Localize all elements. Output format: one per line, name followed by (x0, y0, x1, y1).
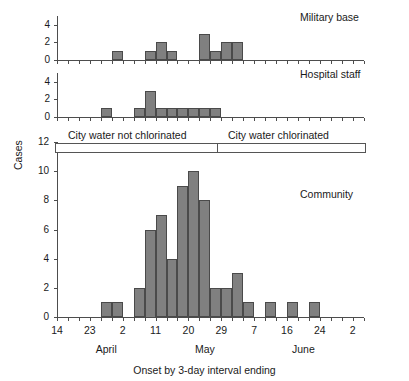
panel-0-y-tick-label: 4 (30, 20, 50, 30)
panel-2-x-tick (232, 318, 233, 321)
bar-2-12 (188, 171, 199, 317)
panel-2-x-tick (134, 318, 135, 321)
panel-2-x-tick (221, 318, 222, 321)
panel-0-x-tick (57, 61, 58, 64)
panel-0-x-tick (101, 61, 102, 64)
bar-2-17 (243, 302, 254, 317)
panel-0-x-tick (254, 61, 255, 64)
panel-2-y-tick (54, 230, 58, 231)
month-label-1: May (181, 343, 229, 355)
panel-0-x-tick (167, 61, 168, 64)
x-tick-label-8: 24 (307, 325, 333, 336)
panel-2-x-tick (199, 318, 200, 321)
panel-1-y-tick-label: 2 (30, 94, 50, 104)
x-tick-label-9: 2 (340, 325, 366, 336)
panel-0-x-tick (287, 61, 288, 64)
bar-2-14 (210, 288, 221, 317)
panel-2-x-tick (145, 318, 146, 321)
bar-1-7 (134, 108, 145, 117)
panel-0-y-tick-label: 2 (30, 37, 50, 47)
panel-1-x-tick (90, 118, 91, 121)
panel-1-x-tick (57, 118, 58, 121)
panel-1-x-tick (199, 118, 200, 121)
panel-1-x-tick (320, 118, 321, 121)
bar-1-14 (210, 108, 221, 117)
panel-1-x-tick (298, 118, 299, 121)
panel-0-x-tick (364, 61, 365, 64)
panel-1-x-tick (68, 118, 69, 121)
panel-0-x-tick (177, 61, 178, 64)
panel-0-x-tick (156, 61, 157, 64)
panel-0-x-tick (112, 61, 113, 64)
panel-0-x-tick (276, 61, 277, 64)
panel-2-x-tick (167, 318, 168, 321)
bar-2-19 (265, 302, 276, 317)
panel-0-x-tick (342, 61, 343, 64)
bar-2-16 (232, 273, 243, 317)
bar-1-12 (188, 108, 199, 117)
panel-2-y-tick-label: 10 (27, 166, 49, 176)
panel-2-y-tick-label: 12 (27, 137, 49, 147)
bar-1-9 (156, 108, 167, 117)
bar-2-10 (167, 259, 177, 317)
bar-2-7 (134, 288, 145, 317)
bar-0-10 (167, 51, 177, 60)
x-tick-label-6: 7 (241, 325, 267, 336)
panel-2-x-tick (320, 318, 321, 321)
panel-1-x-tick (309, 118, 310, 121)
x-tick-label-7: 16 (274, 325, 300, 336)
panel-2-x-tick (177, 318, 178, 321)
panel-0-y-tick (54, 42, 58, 43)
panel-1-y-tick (54, 117, 58, 118)
panel-1-x-tick (243, 118, 244, 121)
panel-1-x-tick (287, 118, 288, 121)
panel-1-y-tick (54, 82, 58, 83)
bar-2-9 (156, 215, 167, 317)
chlorination-right-label: City water chlorinated (228, 129, 329, 141)
bar-2-23 (309, 302, 320, 317)
panel-0-x-tick (320, 61, 321, 64)
bar-2-21 (287, 302, 298, 317)
panel-1-x-tick (177, 118, 178, 121)
y-axis-title: Cases (12, 140, 24, 170)
bar-0-15 (221, 42, 232, 60)
month-label-2: June (279, 343, 327, 355)
month-label-0: April (82, 343, 130, 355)
panel-0-x-tick (79, 61, 80, 64)
panel-0-x-tick (331, 61, 332, 64)
panel-2-x-tick (57, 318, 58, 321)
bar-2-4 (101, 302, 112, 317)
x-tick-label-1: 23 (77, 325, 103, 336)
panel-title-2: Community (300, 188, 353, 200)
panel-1-x-tick (134, 118, 135, 121)
x-tick-label-0: 14 (44, 325, 70, 336)
panel-1-y-tick (54, 99, 58, 100)
panel-2-y-tick (54, 288, 58, 289)
panel-0-x-tick (123, 61, 124, 64)
panel-0-x-tick (145, 61, 146, 64)
bar-0-13 (199, 34, 210, 60)
panel-1-x-tick (188, 118, 189, 121)
panel-2-x-tick (353, 318, 354, 321)
panel-1-y-tick-label: 4 (30, 77, 50, 87)
bar-0-5 (112, 51, 123, 60)
panel-1-y-tick-label: 0 (30, 112, 50, 122)
panel-1-x-tick (265, 118, 266, 121)
panel-2-x-tick (123, 318, 124, 321)
panel-1-x-tick (342, 118, 343, 121)
panel-2-x-tick (265, 318, 266, 321)
panel-2-x-tick (188, 318, 189, 321)
panel-0-x-tick (298, 61, 299, 64)
panel-2-x-tick (243, 318, 244, 321)
panel-0-x-tick (265, 61, 266, 64)
x-tick-label-3: 11 (143, 325, 169, 336)
panel-2-y-tick-label: 2 (27, 283, 49, 293)
panel-1-x-tick (364, 118, 365, 121)
panel-2-y-tick (54, 259, 58, 260)
panel-2-x-tick (287, 318, 288, 321)
panel-1-x-tick (331, 118, 332, 121)
panel-1-x-tick (79, 118, 80, 121)
panel-2-y-tick-label: 4 (27, 254, 49, 264)
panel-0-x-tick (221, 61, 222, 64)
bar-2-11 (177, 186, 188, 317)
